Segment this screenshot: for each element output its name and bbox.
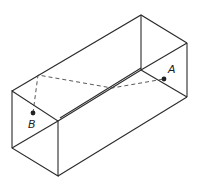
top-front-edge — [58, 70, 141, 121]
label-a: A — [168, 63, 176, 76]
box-diagram: A B — [0, 0, 198, 186]
right-face-diagonal — [141, 70, 187, 97]
point-a — [162, 77, 167, 82]
right-face-top — [141, 43, 187, 70]
point-b — [31, 111, 36, 116]
box-drawing — [0, 0, 198, 186]
label-b: B — [28, 118, 36, 131]
top-front-edge-inner — [60, 68, 141, 118]
front-face — [12, 91, 58, 176]
